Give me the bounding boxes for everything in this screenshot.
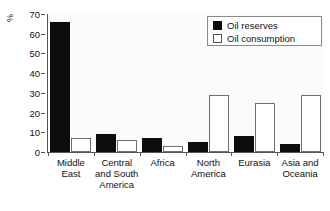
bar-reserves: [188, 142, 208, 152]
x-axis-label: MiddleEast: [48, 157, 94, 179]
y-axis-tick-label: 30: [24, 88, 40, 97]
y-axis-tick-label: 10: [24, 128, 40, 137]
x-axis-label: Asia andOceania: [277, 157, 323, 179]
y-axis-tick-label: 50: [24, 49, 40, 58]
y-axis-tick-mark: [41, 113, 45, 114]
bar-group: [48, 14, 94, 152]
y-axis-tick-mark: [41, 152, 45, 153]
y-axis-title: %: [3, 11, 17, 25]
chart-legend: Oil reservesOil consumption: [207, 16, 322, 46]
x-axis-tick-mark: [48, 152, 49, 156]
x-axis-label-line: America: [94, 179, 140, 190]
bar-consumption: [301, 95, 321, 152]
x-axis-tick-mark: [323, 152, 324, 156]
legend-label: Oil reserves: [227, 20, 278, 31]
y-axis-tick-label: 40: [24, 69, 40, 78]
x-axis-label-line: Africa: [140, 157, 186, 168]
x-axis-tick-mark: [94, 152, 95, 156]
bar-consumption: [117, 140, 137, 152]
legend-swatch-consumption-icon: [213, 34, 222, 43]
legend-swatch-reserves-icon: [213, 21, 222, 30]
x-axis-label-line: Middle: [48, 157, 94, 168]
bar-reserves: [234, 136, 254, 152]
y-axis-tick-mark: [41, 73, 45, 74]
legend-item: Oil reserves: [213, 19, 321, 32]
bar-group: [94, 14, 140, 152]
x-axis-label-line: North: [186, 157, 232, 168]
bar-chart: % 010203040506070 Oil reservesOil consum…: [0, 0, 330, 211]
x-axis-label-line: America: [186, 168, 232, 179]
legend-label: Oil consumption: [227, 33, 295, 44]
y-axis-tick-mark: [41, 93, 45, 94]
y-axis-tick-label: 70: [24, 10, 40, 19]
x-axis-tick-mark: [140, 152, 141, 156]
x-axis-label: Eurasia: [231, 157, 277, 168]
y-axis-tick-label: 60: [24, 29, 40, 38]
bar-reserves: [142, 138, 162, 152]
x-axis-label-line: Oceania: [277, 168, 323, 179]
y-axis-tick-mark: [41, 132, 45, 133]
bar-consumption: [163, 146, 183, 152]
bar-reserves: [50, 22, 70, 152]
x-axis-label: Africa: [140, 157, 186, 168]
x-axis-label-line: Asia and: [277, 157, 323, 168]
x-axis-label-line: East: [48, 168, 94, 179]
legend-item: Oil consumption: [213, 32, 321, 45]
bar-group: [140, 14, 186, 152]
y-axis-tick-mark: [41, 53, 45, 54]
x-axis-tick-mark: [186, 152, 187, 156]
x-axis-tick-mark: [277, 152, 278, 156]
bar-reserves: [96, 134, 116, 152]
bar-consumption: [255, 103, 275, 152]
x-axis-label: Centraland SouthAmerica: [94, 157, 140, 190]
y-axis-tick-label: 20: [24, 108, 40, 117]
x-axis-label-line: Eurasia: [231, 157, 277, 168]
y-axis-tick-mark: [41, 34, 45, 35]
x-axis-tick-mark: [231, 152, 232, 156]
y-axis: 010203040506070: [27, 14, 45, 154]
y-axis-tick-label: 0: [24, 148, 40, 157]
y-axis-tick-mark: [41, 14, 45, 15]
bar-reserves: [280, 144, 300, 152]
bar-consumption: [71, 138, 91, 152]
x-axis-label-line: and South: [94, 168, 140, 179]
x-axis-label: NorthAmerica: [186, 157, 232, 179]
x-axis-label-line: Central: [94, 157, 140, 168]
bar-consumption: [209, 95, 229, 152]
